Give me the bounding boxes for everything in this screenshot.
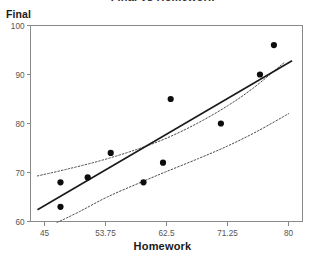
x-tick-label: 62.5 (159, 229, 175, 238)
data-point (257, 71, 263, 77)
data-point (271, 42, 277, 48)
data-point (57, 204, 63, 210)
plot-axes (30, 25, 303, 222)
chart-screenshot: Final vs Homework Final 10090807060 4553… (0, 0, 325, 258)
x-tick-label: 53.75 (95, 229, 116, 238)
x-tick-label: 80 (284, 229, 294, 238)
y-tick-label: 70 (15, 169, 25, 178)
x-axis-label: Homework (0, 240, 325, 252)
y-tick-label: 60 (15, 218, 25, 227)
data-point (140, 179, 146, 185)
y-tick-label: 80 (15, 120, 25, 129)
data-points (57, 42, 277, 210)
x-tick-label: 71.25 (217, 229, 238, 238)
y-tick-label: 100 (11, 22, 25, 31)
data-point (218, 120, 224, 126)
y-tick-label: 90 (15, 71, 25, 80)
regression-line (37, 61, 292, 210)
x-axis-ticks: 4553.7562.571.2580 (40, 222, 294, 238)
data-point (108, 150, 114, 156)
data-point (57, 179, 63, 185)
data-point (85, 174, 91, 180)
y-axis-ticks: 10090807060 (11, 22, 31, 227)
x-tick-label: 45 (40, 229, 50, 238)
scatter-plot-canvas: 10090807060 4553.7562.571.2580 (0, 0, 325, 258)
confidence-band-upper (37, 62, 285, 176)
data-point (160, 160, 166, 166)
data-point (168, 96, 174, 102)
